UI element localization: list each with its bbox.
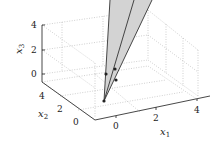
cone <box>102 0 152 103</box>
x2-tick-4: 4 <box>39 91 45 101</box>
x3-axis-label: x3 <box>13 44 26 54</box>
x2-tick-0: 0 <box>73 117 79 127</box>
x3-tick-4: 4 <box>31 20 37 30</box>
x1-tick-4: 4 <box>194 105 200 115</box>
cone-3d-plot: 4 2 0 x3 4 2 0 x2 0 2 4 x1 <box>0 0 222 148</box>
x1-tick-2: 2 <box>153 113 159 123</box>
x2-axis-line <box>42 82 95 120</box>
point-b <box>113 67 116 70</box>
x2-axis-label: x2 <box>38 108 48 121</box>
x1-axis-label: x1 <box>160 126 170 139</box>
x3-tick-2: 2 <box>31 45 37 55</box>
x1-tick-0: 0 <box>113 121 119 131</box>
x3-tick-0: 0 <box>31 69 37 79</box>
point-c <box>114 78 117 81</box>
x2-tick-2: 2 <box>57 104 63 114</box>
point-a <box>104 72 107 75</box>
apex-point <box>102 99 105 102</box>
